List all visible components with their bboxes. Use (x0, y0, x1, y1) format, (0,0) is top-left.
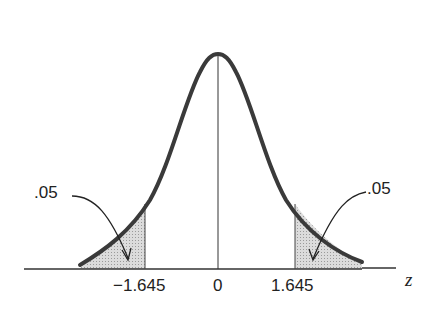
normal-curve-diagram (0, 0, 439, 311)
left-area-label: .05 (34, 184, 58, 201)
axis-label: z (405, 270, 412, 289)
left-tick-label: −1.645 (113, 277, 165, 294)
center-tick-label: 0 (213, 277, 222, 294)
right-area-label: .05 (367, 180, 391, 197)
right-tick-label: 1.645 (271, 277, 314, 294)
